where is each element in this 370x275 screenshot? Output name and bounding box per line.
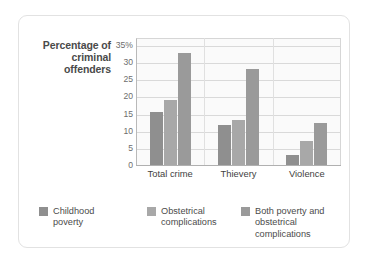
y-axis-title: Percentage of criminal offenders <box>23 39 111 76</box>
legend-item[interactable]: Both poverty and obstetrical complicatio… <box>241 206 351 240</box>
x-tick-label: Total crime <box>147 168 192 179</box>
legend-label: Obstetrical complications <box>161 206 217 229</box>
y-tick-label: 20 <box>123 91 133 101</box>
y-tick-label: 30 <box>123 57 133 67</box>
group-separator <box>204 38 205 165</box>
legend-item[interactable]: Obstetrical complications <box>147 206 217 229</box>
bar-groups <box>136 38 341 165</box>
legend-label: Childhood poverty <box>53 206 94 229</box>
bar[interactable] <box>286 155 299 165</box>
chart-card: Percentage of criminal offenders 35%3025… <box>18 15 350 248</box>
x-tick-label: Thievery <box>221 168 257 179</box>
bar-group <box>273 38 341 165</box>
bar[interactable] <box>178 53 191 165</box>
bar[interactable] <box>232 120 245 165</box>
x-axis-line <box>136 165 341 166</box>
group-separator <box>273 38 274 165</box>
y-tick-label: 5 <box>128 143 133 153</box>
y-tick-label: 25 <box>123 74 133 84</box>
bar[interactable] <box>150 112 163 165</box>
y-tick-label: 10 <box>123 126 133 136</box>
legend-swatch-icon <box>147 207 156 216</box>
bar[interactable] <box>300 141 313 165</box>
bar-group <box>136 38 204 165</box>
chart-legend: Childhood povertyObstetrical complicatio… <box>19 206 351 248</box>
bar[interactable] <box>164 100 177 165</box>
y-axis-tick-labels: 35%302520151050 <box>103 38 133 165</box>
y-tick-label: 0 <box>128 160 133 170</box>
legend-label: Both poverty and obstetrical complicatio… <box>255 206 351 240</box>
legend-swatch-icon <box>241 207 250 216</box>
y-tick-label: 35% <box>116 40 133 50</box>
legend-item[interactable]: Childhood poverty <box>39 206 94 229</box>
bar[interactable] <box>218 125 231 166</box>
x-tick-label: Violence <box>289 168 325 179</box>
bar[interactable] <box>246 69 259 165</box>
bar-group <box>204 38 272 165</box>
x-axis-tick-labels: Total crimeThieveryViolence <box>136 168 341 184</box>
legend-swatch-icon <box>39 207 48 216</box>
bar-chart: Percentage of criminal offenders 35%3025… <box>19 16 351 201</box>
bar[interactable] <box>314 123 327 165</box>
y-tick-label: 15 <box>123 109 133 119</box>
